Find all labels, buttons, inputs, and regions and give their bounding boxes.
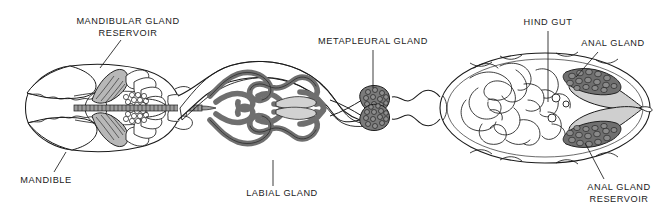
label-labial-gland: LABIAL GLAND: [246, 188, 318, 198]
gaster-group: [440, 52, 652, 164]
ant-anatomy-diagram: MANDIBULAR GLAND RESERVOIR METAPLEURAL G…: [0, 0, 669, 216]
label-mandibular-gland-reservoir-line2: RESERVOIR: [99, 28, 158, 38]
petiole: [392, 90, 440, 125]
label-anal-gland-reservoir-line1: ANAL GLAND: [587, 182, 650, 192]
label-mandibular-gland-reservoir-line1: MANDIBULAR GLAND: [76, 16, 179, 26]
leader-mandibular-gland-reservoir: [100, 40, 121, 68]
diagram-canvas: MANDIBULAR GLAND RESERVOIR METAPLEURAL G…: [0, 0, 669, 216]
label-mandible: MANDIBLE: [20, 175, 71, 185]
label-anal-gland: ANAL GLAND: [581, 38, 644, 48]
thorax-group: [178, 61, 374, 143]
leader-mandible: [54, 152, 66, 172]
esophagus-neck: [202, 106, 216, 110]
label-anal-gland-reservoir-line2: RESERVOIR: [590, 194, 649, 204]
label-hind-gut: HIND GUT: [524, 17, 573, 27]
label-metapleural-gland: METAPLEURAL GLAND: [318, 36, 428, 46]
